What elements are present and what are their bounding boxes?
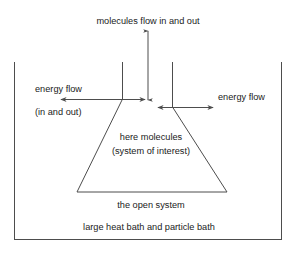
flask-outline	[77, 62, 227, 192]
energy-flow-right-label: energy flow	[218, 93, 265, 102]
system-label-line2: (system of interest)	[112, 147, 190, 156]
diagram-vector-layer	[0, 0, 302, 254]
energy-flow-left-sublabel: (in and out)	[35, 108, 81, 117]
system-label-line1: here molecules	[120, 133, 182, 142]
open-system-label: the open system	[117, 201, 184, 210]
diagram-canvas: molecules flow in and out energy flow (i…	[0, 0, 302, 254]
molecules-flow-label: molecules flow in and out	[96, 17, 199, 26]
bath-label: large heat bath and particle bath	[83, 223, 215, 232]
energy-flow-left-label: energy flow	[35, 85, 82, 94]
